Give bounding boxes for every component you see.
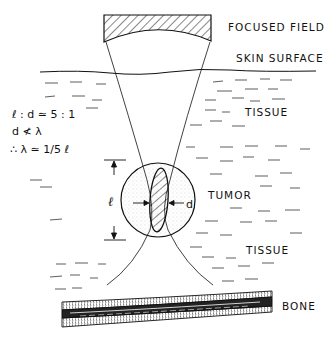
- label-skin-surface: SKIN SURFACE: [236, 52, 324, 64]
- width-label: d: [186, 198, 193, 211]
- bone: [62, 291, 272, 327]
- label-focused-field: FOCUSED FIELD: [228, 21, 325, 33]
- transducer: [104, 15, 211, 42]
- label-bone: BONE: [282, 300, 316, 312]
- diagram-canvas: ℓ : d ≃ 5 : 1 d ≮ λ ∴ λ ≃ 1/5 ℓ d ℓ FOCU…: [0, 0, 335, 340]
- equation-inequality: d ≮ λ: [12, 125, 42, 138]
- skin-surface-line: [40, 69, 316, 74]
- equations: ℓ : d ≃ 5 : 1 d ≮ λ ∴ λ ≃ 1/5 ℓ: [10, 108, 75, 156]
- label-tissue-lower: TISSUE: [245, 244, 289, 256]
- equation-ratio: ℓ : d ≃ 5 : 1: [11, 108, 75, 121]
- label-tumor: TUMOR: [207, 189, 252, 201]
- tumor: [121, 163, 195, 237]
- length-label: ℓ: [108, 194, 114, 209]
- label-tissue-upper: TISSUE: [244, 106, 288, 118]
- equation-wavelength: ∴ λ ≃ 1/5 ℓ: [10, 143, 69, 156]
